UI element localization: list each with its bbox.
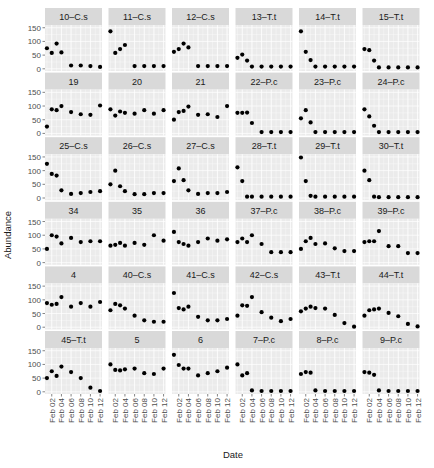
- data-point: [59, 188, 63, 192]
- data-point: [132, 366, 136, 370]
- facet-label: 8–P.c: [317, 335, 339, 345]
- data-point: [235, 56, 239, 60]
- y-tick-label: 0: [37, 388, 42, 397]
- facet-panel: 41–C.s: [172, 266, 229, 329]
- data-point: [152, 372, 156, 376]
- facet-panel: 21: [172, 73, 229, 136]
- y-tick-label: 50: [32, 180, 41, 189]
- data-point: [299, 29, 303, 33]
- facet-panel: 35: [108, 202, 165, 265]
- data-point: [172, 50, 176, 54]
- data-point: [396, 65, 400, 69]
- data-point: [88, 64, 92, 68]
- data-point: [269, 316, 273, 320]
- facet-label: 34: [68, 206, 78, 216]
- data-point: [206, 371, 210, 375]
- data-point: [118, 241, 122, 245]
- data-point: [240, 179, 244, 183]
- data-point: [152, 233, 156, 237]
- data-point: [59, 365, 63, 369]
- x-tick-label: Feb 12: [287, 397, 296, 422]
- panel-background: [363, 283, 420, 329]
- x-tick-label: Feb 10: [86, 397, 95, 422]
- panel-background: [299, 283, 356, 329]
- data-point: [279, 389, 283, 393]
- data-point: [352, 195, 356, 199]
- facet-panel: 22–P.c: [235, 73, 292, 136]
- data-point: [142, 318, 146, 322]
- panel-background: [363, 154, 420, 200]
- data-point: [88, 190, 92, 194]
- data-point: [113, 243, 117, 247]
- data-point: [279, 250, 283, 254]
- facet-panel: 4050100150: [28, 266, 103, 332]
- data-point: [69, 63, 73, 67]
- data-point: [69, 305, 73, 309]
- data-point: [132, 192, 136, 196]
- data-point: [250, 233, 254, 237]
- data-point: [377, 229, 381, 233]
- data-point: [304, 239, 308, 243]
- y-tick-label: 50: [32, 51, 41, 60]
- data-point: [372, 58, 376, 62]
- x-tick-label: Feb 08: [140, 397, 149, 422]
- data-point: [196, 373, 200, 377]
- data-point: [69, 110, 73, 114]
- facet-label: 22–P.c: [251, 77, 278, 87]
- data-point: [79, 63, 83, 67]
- data-point: [386, 244, 390, 248]
- data-point: [45, 162, 49, 166]
- data-point: [215, 369, 219, 373]
- data-point: [123, 189, 127, 193]
- data-point: [323, 306, 327, 310]
- data-point: [406, 251, 410, 255]
- panel-background: [109, 90, 166, 136]
- data-point: [352, 389, 356, 393]
- data-point: [215, 191, 219, 195]
- data-point: [406, 322, 410, 326]
- data-point: [161, 191, 165, 195]
- data-point: [259, 389, 263, 393]
- data-point: [152, 320, 156, 324]
- x-tick-label: Feb 06: [67, 397, 76, 422]
- x-tick-label: Feb 02: [48, 397, 57, 422]
- data-point: [415, 195, 419, 199]
- y-tick-label: 150: [28, 153, 42, 162]
- data-point: [377, 306, 381, 310]
- data-point: [113, 302, 117, 306]
- data-point: [123, 244, 127, 248]
- data-point: [113, 114, 117, 118]
- data-point: [235, 165, 239, 169]
- facet-panel: 34050100150: [28, 202, 103, 268]
- panel-background: [109, 154, 166, 200]
- data-point: [240, 236, 244, 240]
- data-point: [132, 112, 136, 116]
- y-tick-label: 100: [28, 167, 42, 176]
- data-point: [108, 362, 112, 366]
- data-point: [386, 65, 390, 69]
- data-point: [161, 239, 165, 243]
- x-tick-label: Feb 04: [311, 397, 320, 422]
- data-point: [50, 233, 54, 237]
- data-point: [367, 308, 371, 312]
- data-point: [69, 370, 73, 374]
- facet-label: 10–C.s: [59, 12, 88, 22]
- data-point: [50, 107, 54, 111]
- data-point: [377, 65, 381, 69]
- data-point: [69, 192, 73, 196]
- x-tick-label: Feb 04: [121, 397, 130, 422]
- data-point: [206, 191, 210, 195]
- panel-background: [109, 283, 166, 329]
- data-point: [288, 250, 292, 254]
- facet-label: 13–T.t: [252, 12, 277, 22]
- data-point: [113, 51, 117, 55]
- data-point: [196, 315, 200, 319]
- data-point: [333, 246, 337, 250]
- facet-label: 45–T.t: [61, 335, 86, 345]
- facet-label: 28–T.t: [252, 141, 277, 151]
- data-point: [172, 118, 176, 122]
- panel-background: [299, 25, 356, 71]
- facet-label: 21: [195, 77, 205, 87]
- data-point: [362, 169, 366, 173]
- data-point: [313, 65, 317, 69]
